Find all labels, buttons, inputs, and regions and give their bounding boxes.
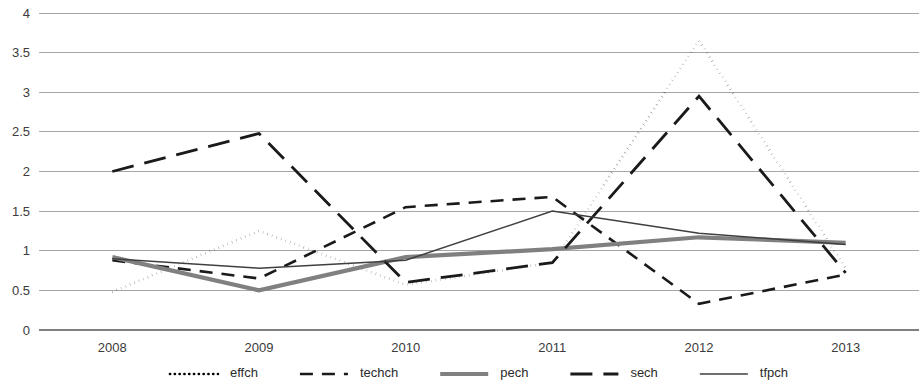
chart-canvas: 00.511.522.533.54 2008200920102011201220… bbox=[0, 0, 924, 391]
legend-item-sech[interactable]: sech bbox=[570, 365, 657, 380]
y-tick-label: 1 bbox=[23, 243, 30, 258]
y-tick-label: 4 bbox=[23, 6, 30, 21]
gridlines bbox=[39, 13, 919, 330]
x-axis-tick-labels: 200820092010201120122013 bbox=[98, 340, 860, 355]
y-tick-label: 0.5 bbox=[12, 283, 30, 298]
y-tick-label: 0 bbox=[23, 323, 30, 338]
x-tick-label: 2011 bbox=[538, 340, 566, 355]
legend-label-pech: pech bbox=[500, 365, 528, 380]
y-tick-label: 3 bbox=[23, 85, 30, 100]
x-tick-label: 2010 bbox=[391, 340, 420, 355]
chart-legend: effchtechchpechsechtfpch bbox=[170, 365, 788, 380]
x-tick-label: 2013 bbox=[831, 340, 860, 355]
y-tick-label: 3.5 bbox=[12, 45, 30, 60]
legend-item-tfpch[interactable]: tfpch bbox=[700, 365, 788, 380]
legend-label-tfpch: tfpch bbox=[760, 365, 788, 380]
legend-label-techch: techch bbox=[360, 365, 398, 380]
line-chart: 00.511.522.533.54 2008200920102011201220… bbox=[0, 0, 924, 391]
legend-item-pech[interactable]: pech bbox=[440, 365, 528, 380]
legend-label-sech: sech bbox=[630, 365, 657, 380]
series-lines bbox=[112, 41, 845, 304]
legend-item-effch[interactable]: effch bbox=[170, 365, 258, 380]
y-axis-tick-labels: 00.511.522.533.54 bbox=[12, 6, 30, 338]
x-tick-label: 2009 bbox=[245, 340, 274, 355]
x-tick-label: 2012 bbox=[685, 340, 714, 355]
legend-label-effch: effch bbox=[230, 365, 258, 380]
y-tick-label: 2 bbox=[23, 164, 30, 179]
x-tick-label: 2008 bbox=[98, 340, 127, 355]
y-tick-label: 2.5 bbox=[12, 124, 30, 139]
legend-item-techch[interactable]: techch bbox=[300, 365, 398, 380]
y-tick-label: 1.5 bbox=[12, 204, 30, 219]
series-line-pech bbox=[112, 237, 845, 290]
